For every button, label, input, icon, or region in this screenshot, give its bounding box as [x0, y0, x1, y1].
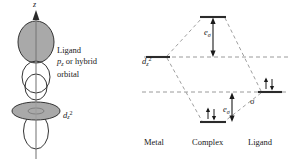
z-axis-label: z — [33, 0, 36, 11]
column-caption-ligand: Ligand — [248, 137, 272, 147]
ligand-sigma-electron-pair — [264, 78, 274, 91]
ligand-caption-line-3: orbital — [57, 69, 119, 80]
energy-level-panel: dz2 eσ eσ σ Metal Complex Ligand — [140, 0, 292, 159]
ligand-caption-line-2: pz or hybrid — [57, 56, 119, 69]
correlation-ligand-to-antibonding — [225, 18, 261, 91]
ligand-orbital-caption: Ligand pz or hybrid orbital — [57, 45, 119, 79]
esigma-top-arrowhead-down — [210, 51, 215, 58]
esigma-antibonding-label: eσ — [204, 27, 211, 38]
ligand-sigma-level-label: σ — [250, 96, 255, 106]
ligand-caption-line-1: Ligand — [57, 45, 119, 56]
orbital-overlap-panel: z Ligand pz or hybrid orbital dz2 — [0, 0, 140, 159]
column-caption-complex: Complex — [192, 137, 223, 147]
bonding-mo-electron-pair — [206, 108, 216, 121]
correlation-metal-to-bonding — [167, 58, 202, 121]
ligand-caption-pz-rest: or hybrid — [64, 56, 98, 66]
dz2-label-sup: 2 — [70, 110, 73, 116]
esigma-antibonding-sub: σ — [208, 32, 211, 38]
esigma-top-arrowhead-up — [210, 18, 215, 25]
esigma-bonding-label: eσ — [223, 104, 230, 115]
esigma-bonding-sub: σ — [227, 109, 230, 115]
z-axis-arrowhead — [33, 10, 40, 20]
esigma-bottom-arrowhead-up — [229, 93, 234, 100]
figure-root: z Ligand pz or hybrid orbital dz2 — [0, 0, 292, 159]
esigma-bottom-arrowhead-down — [229, 116, 234, 123]
energy-level-diagram — [140, 0, 292, 159]
metal-dz2-level-label: dz2 — [142, 56, 152, 67]
metal-dz2-sup: 2 — [149, 56, 152, 62]
dz2-orbital-label: dz2 — [63, 108, 73, 123]
column-caption-metal: Metal — [144, 137, 164, 147]
orbital-overlap-drawing — [0, 0, 140, 159]
correlation-metal-to-antibonding — [167, 18, 202, 56]
